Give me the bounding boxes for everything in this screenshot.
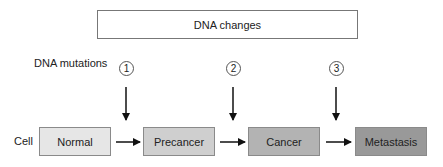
- stage-normal-label: Normal: [57, 136, 92, 148]
- stage-precancer-box: Precancer: [143, 127, 215, 156]
- stage-precancer-label: Precancer: [154, 136, 204, 148]
- stage-metastasis-label: Metastasis: [365, 136, 418, 148]
- stage-cancer-label: Cancer: [266, 136, 301, 148]
- stage-normal-box: Normal: [39, 127, 111, 156]
- stage-metastasis-box: Metastasis: [355, 127, 427, 156]
- stage-cancer-box: Cancer: [248, 127, 320, 156]
